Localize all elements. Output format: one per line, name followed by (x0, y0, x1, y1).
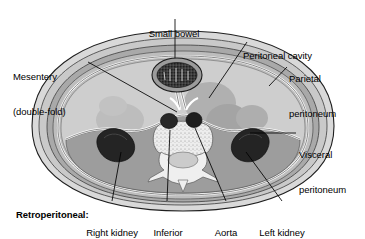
label-aorta: Aorta (208, 204, 244, 239)
label-small-bowel-line1: Small bowel (129, 28, 219, 40)
label-left-kidney: Left kidney (251, 204, 313, 239)
label-mesentery-line2: (double-fold) (13, 106, 93, 118)
aorta-vessel (186, 113, 202, 128)
label-mesentery-line1: Mesentery (13, 71, 93, 83)
spinal-canal (168, 152, 198, 168)
label-aorta-line1: Aorta (208, 227, 244, 239)
label-small-bowel: Small bowel (129, 5, 219, 63)
figure-container: Small bowel Peritoneal cavity Parietal p… (0, 0, 365, 239)
label-left-kidney-line1: Left kidney (251, 227, 313, 239)
label-inferior-vena-cava-line1: Inferior (139, 227, 197, 239)
right-colon-shadow (99, 96, 127, 116)
small-bowel-loop (152, 58, 202, 92)
label-mesentery: Mesentery (double-fold) (13, 48, 93, 140)
label-visceral-peritoneum-line2: peritoneum (299, 184, 365, 196)
label-parietal-peritoneum-line2: peritoneum (289, 108, 365, 120)
left-colon-shadow (236, 105, 268, 131)
inferior-vena-cava-vessel (161, 114, 178, 129)
label-visceral-peritoneum-line1: Visceral (299, 149, 365, 161)
label-inferior-vena-cava: Inferior vena cava (139, 204, 197, 239)
label-parietal-peritoneum-line1: Parietal (289, 73, 365, 85)
